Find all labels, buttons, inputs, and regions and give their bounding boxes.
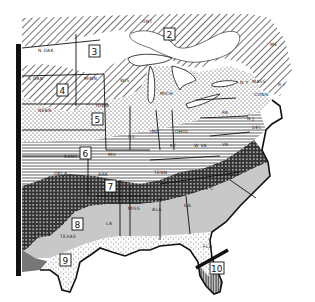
state-label-del: DEL <box>252 125 262 130</box>
svg-text:8: 8 <box>75 220 81 230</box>
zone-label-2: 2 <box>164 28 175 40</box>
state-label-ark: ARK <box>98 172 109 177</box>
state-label-nj: N J <box>247 116 254 121</box>
svg-text:7: 7 <box>108 182 114 192</box>
state-label-iowa: IOWA <box>96 103 110 108</box>
state-label-mass: MASS <box>252 79 266 84</box>
state-label-ohio: OHIO <box>175 129 188 134</box>
state-label-ill: ILL <box>128 134 135 139</box>
svg-text:3: 3 <box>92 47 98 57</box>
zone-label-4: 4 <box>57 84 68 96</box>
zone-label-8: 8 <box>72 218 83 230</box>
state-label-la: LA <box>106 221 113 226</box>
state-label-texas: TEXAS <box>59 234 76 239</box>
state-label-ind: IND <box>150 129 159 134</box>
hardiness-zone-map: 2 3 4 5 6 7 8 9 10 ONT N DAK S DAK NEBR … <box>0 0 315 302</box>
state-label-minn: MINN <box>84 76 97 81</box>
state-label-nebr: NEBR <box>38 108 52 113</box>
state-label-okla: OKLA <box>54 171 68 176</box>
zone-label-10: 10 <box>210 262 224 274</box>
state-label-mo: MO <box>108 152 116 157</box>
state-label-kans: KANS <box>64 154 77 159</box>
zone-label-7: 7 <box>105 180 116 192</box>
zone-label-3: 3 <box>89 45 100 57</box>
state-label-ga: GA <box>184 203 192 208</box>
state-label-pa: PA <box>222 110 229 115</box>
state-label-ky: KY <box>170 143 176 148</box>
state-label-ala: ALA <box>152 207 162 212</box>
western-edge-bar <box>16 44 21 276</box>
svg-text:5: 5 <box>95 115 101 125</box>
svg-text:6: 6 <box>83 149 89 159</box>
state-label-miss: MISS <box>128 206 140 211</box>
state-label-va: VA <box>222 142 229 147</box>
zone-label-6: 6 <box>80 147 91 159</box>
state-label-wva: W VA <box>194 143 208 148</box>
state-label-conn: CONN <box>254 92 269 97</box>
state-label-me: ME <box>270 42 277 47</box>
svg-text:9: 9 <box>63 256 69 266</box>
zone-label-9: 9 <box>60 254 71 266</box>
zone-label-5: 5 <box>92 113 103 125</box>
state-label-sc: S C <box>205 186 213 191</box>
state-label-fla: FLA <box>203 244 213 249</box>
lake-superior <box>128 54 172 66</box>
state-label-nc: N C <box>224 168 233 173</box>
svg-text:10: 10 <box>211 264 223 274</box>
state-label-ny: N Y <box>240 80 248 85</box>
state-label-tenn: TENN <box>153 170 168 175</box>
state-label-ont: ONT <box>142 19 153 24</box>
state-label-wis: WIS <box>120 78 130 83</box>
state-label-sdak: S DAK <box>28 76 44 81</box>
svg-text:2: 2 <box>167 30 173 40</box>
state-label-mich: MICH <box>160 91 173 96</box>
state-label-ri: R I <box>278 82 285 87</box>
svg-text:4: 4 <box>60 86 66 96</box>
state-label-ndak: N DAK <box>38 48 54 53</box>
